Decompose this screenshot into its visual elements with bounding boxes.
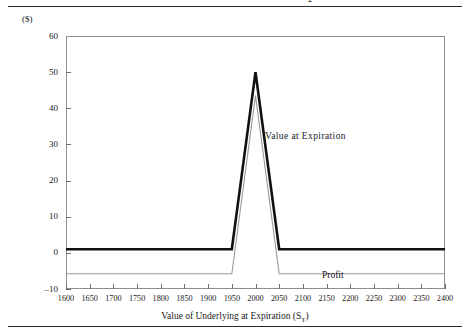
y-tick-mark xyxy=(66,144,71,145)
y-tick-label: –10 xyxy=(18,285,58,294)
y-tick-mark xyxy=(66,72,71,73)
x-tick-mark xyxy=(445,284,446,289)
x-tick-mark xyxy=(113,284,114,289)
y-tick-mark xyxy=(66,181,71,182)
x-tick-mark xyxy=(303,284,304,289)
x-tick-mark xyxy=(279,284,280,289)
x-tick-mark xyxy=(327,284,328,289)
profit-line xyxy=(66,96,445,274)
y-tick-label: 30 xyxy=(18,140,58,149)
y-tick-label: 0 xyxy=(18,248,58,257)
figure-title: Sell Two Calls with Exercise Price X2 xyxy=(0,0,470,4)
x-tick-mark xyxy=(374,284,375,289)
x-tick-mark xyxy=(161,284,162,289)
x-tick-label: 2400 xyxy=(429,294,461,303)
x-tick-mark xyxy=(232,284,233,289)
x-tick-mark xyxy=(256,284,257,289)
x-tick-mark xyxy=(184,284,185,289)
y-tick-label: 40 xyxy=(18,104,58,113)
y-tick-mark xyxy=(66,289,71,290)
chart-series-layer xyxy=(66,36,445,289)
x-tick-mark xyxy=(66,284,67,289)
x-tick-mark xyxy=(350,284,351,289)
header-divider xyxy=(8,6,462,7)
x-tick-mark xyxy=(398,284,399,289)
y-tick-label: 60 xyxy=(18,32,58,41)
y-tick-mark xyxy=(66,253,71,254)
x-axis-title: Value of Underlying at Expiration (ST) xyxy=(0,311,470,324)
x-tick-mark xyxy=(90,284,91,289)
x-tick-mark xyxy=(421,284,422,289)
x-tick-mark xyxy=(137,284,138,289)
annotation-profit: Profit xyxy=(322,270,344,280)
y-tick-label: 50 xyxy=(18,68,58,77)
figure-title-subscript: 2 xyxy=(308,0,312,4)
x-axis-title-tail: ) xyxy=(306,311,309,321)
footer-divider xyxy=(8,326,462,327)
annotation-value-at-expiration: Value at Expiration xyxy=(265,131,346,141)
x-axis-title-text: Value of Underlying at Expiration (S xyxy=(161,311,301,321)
figure-title-text: Sell Two Calls with Exercise Price X xyxy=(158,0,308,1)
y-tick-label: 20 xyxy=(18,176,58,185)
y-tick-label: 10 xyxy=(18,212,58,221)
y-tick-mark xyxy=(66,217,71,218)
y-tick-mark xyxy=(66,108,71,109)
y-axis-unit-label: ($) xyxy=(22,14,33,24)
x-tick-mark xyxy=(208,284,209,289)
